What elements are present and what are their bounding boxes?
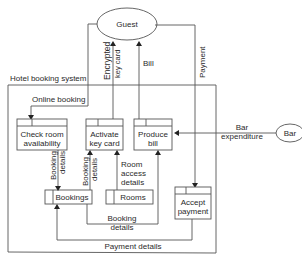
guest-label: Guest (116, 20, 138, 29)
booking-details-a-1: Booking (49, 151, 58, 180)
process-check-room-availability: Check room availability (17, 119, 67, 150)
booking-details-a-2: details (58, 151, 67, 174)
data-flow-diagram: Hotel booking system Guest Bar Online bo… (0, 0, 302, 264)
process-accept-payment: Accept payment (175, 187, 211, 219)
arrow-head-icon (174, 130, 179, 136)
payment-details-label: Payment details (105, 242, 162, 251)
booking-details-c-2: details (110, 223, 133, 232)
bar-label: Bar (284, 129, 297, 138)
arrow-head-icon (114, 150, 120, 155)
bar-expenditure-label-1: Bar (236, 123, 249, 132)
process-label-2: availability (24, 139, 61, 148)
data-store-label: Rooms (120, 193, 145, 202)
process-produce-bill: Produce bill (134, 119, 172, 150)
arrow-head-icon (87, 150, 93, 155)
room-access-label-3: details (121, 178, 144, 187)
arrow-head-icon (155, 150, 161, 155)
data-store-label: Bookings (56, 193, 89, 202)
process-label-2: payment (178, 207, 209, 216)
booking-details-b-2: details (90, 158, 99, 181)
bill-label: Bill (143, 59, 154, 68)
process-label-2: bill (148, 139, 158, 148)
online-booking-label: Online booking (32, 95, 85, 104)
process-label-1: Check room (20, 130, 63, 139)
room-access-label-2: access (121, 169, 146, 178)
process-label-1: Accept (181, 198, 206, 207)
system-boundary-label: Hotel booking system (10, 74, 87, 83)
booking-details-b-1: Booking (81, 157, 90, 186)
booking-details-c-1: Booking (108, 214, 137, 223)
arrow-head-icon (136, 41, 142, 46)
data-store-bookings: Bookings (45, 190, 92, 204)
payment-label: Payment (198, 46, 207, 78)
data-store-rooms: Rooms (106, 190, 153, 204)
room-access-label-1: Room (121, 160, 143, 169)
arrow-head-icon (54, 204, 60, 209)
bar-expenditure-label-2: expenditure (221, 132, 263, 141)
encrypted-label: Encrypted (102, 41, 112, 80)
key-card-label: key card (113, 50, 122, 78)
process-activate-key-card: Activate key card (86, 119, 123, 150)
process-label-2: key card (89, 139, 119, 148)
process-label-1: Produce (138, 130, 168, 139)
payment-flow (155, 25, 195, 186)
process-label-1: Activate (90, 130, 119, 139)
